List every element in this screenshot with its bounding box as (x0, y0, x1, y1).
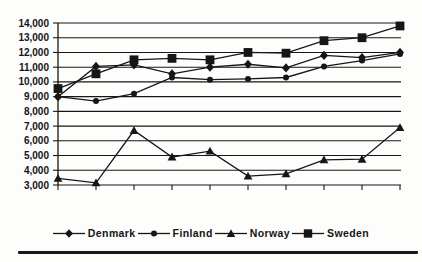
marker-sweden (396, 22, 405, 31)
legend-label: Norway (248, 227, 291, 239)
marker-norway (130, 126, 139, 134)
marker-norway (206, 147, 215, 155)
circle-icon (151, 230, 157, 236)
marker-norway (54, 174, 63, 182)
marker-finland (93, 98, 99, 104)
marker-sweden (54, 84, 63, 93)
y-axis-tick-label: 8,000 (24, 106, 49, 117)
y-axis-tick-label: 10,000 (18, 76, 49, 87)
marker-finland (55, 94, 61, 100)
legend-label: Finland (171, 227, 214, 239)
y-axis-tick-label: 7,000 (24, 121, 49, 132)
marker-finland (283, 74, 289, 80)
marker-finland (359, 58, 365, 64)
marker-finland (207, 77, 213, 83)
legend-label: Sweden (325, 227, 370, 239)
square-icon (304, 229, 312, 237)
y-axis-tick-label: 14,000 (18, 18, 49, 29)
legend-item-denmark: Denmark (52, 227, 137, 240)
y-axis-tick-label: 9,000 (24, 91, 49, 102)
y-axis-tick-label: 3,000 (24, 180, 49, 191)
y-axis-tick-label: 13,000 (18, 32, 49, 43)
marker-finland (169, 74, 175, 80)
bottom-rule (18, 251, 418, 254)
marker-sweden (320, 36, 329, 45)
scanned-chart-page: 3,0004,0005,0006,0007,0008,0009,00010,00… (0, 0, 422, 262)
y-axis-tick-label: 12,000 (18, 47, 49, 58)
series-line-denmark (58, 52, 400, 96)
marker-sweden (282, 49, 291, 58)
legend-item-sweden: Sweden (291, 227, 370, 240)
marker-denmark (282, 63, 290, 72)
marker-finland (397, 51, 403, 57)
y-axis-tick-label: 11,000 (19, 62, 49, 73)
diamond-legend-key-icon (52, 227, 86, 240)
marker-finland (245, 76, 251, 82)
series-line-finland (58, 54, 400, 101)
marker-norway (396, 123, 405, 131)
marker-sweden (130, 55, 139, 64)
marker-finland (321, 63, 327, 69)
y-axis-tick-label: 4,000 (24, 165, 49, 176)
line-chart-plot: 3,0004,0005,0006,0007,0008,0009,00010,00… (0, 0, 422, 210)
triangle-legend-key-icon (214, 227, 248, 240)
marker-sweden (358, 33, 367, 42)
marker-sweden (206, 55, 215, 64)
y-axis-tick-label: 5,000 (24, 150, 49, 161)
marker-finland (131, 91, 137, 97)
marker-sweden (168, 54, 177, 63)
diamond-icon (65, 229, 73, 238)
legend-item-norway: Norway (214, 227, 291, 240)
square-legend-key-icon (291, 227, 325, 240)
circle-legend-key-icon (137, 227, 171, 240)
chart-legend: DenmarkFinlandNorwaySweden (0, 224, 422, 242)
legend-item-finland: Finland (137, 227, 214, 240)
marker-sweden (244, 48, 253, 57)
marker-sweden (92, 69, 101, 78)
y-axis-tick-label: 6,000 (24, 135, 49, 146)
legend-label: Denmark (86, 227, 137, 239)
